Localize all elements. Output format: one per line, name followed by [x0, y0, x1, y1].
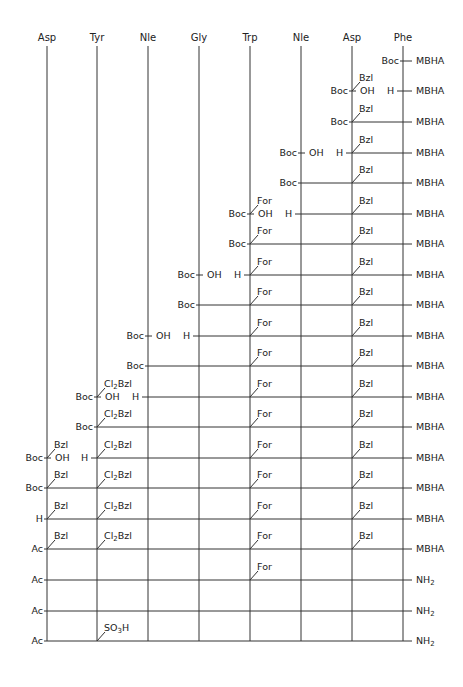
terminal-label: Boc: [177, 299, 195, 310]
side-chain-bond: [250, 357, 258, 366]
protecting-group-cl2bzl: Cl2Bzl: [104, 530, 132, 541]
boc-label: Boc: [177, 269, 195, 280]
resin-label: MBHA: [416, 177, 444, 188]
side-chain-bond: [97, 510, 105, 519]
h-label: H: [336, 147, 343, 158]
protecting-group-cl2bzl: Cl2Bzl: [104, 378, 132, 389]
protecting-group-bzl: Bzl: [54, 530, 68, 541]
side-chain-bond: [352, 205, 360, 214]
oh-label: OH: [360, 85, 375, 96]
protecting-group-bzl: Bzl: [359, 103, 373, 114]
side-chain-bond: [352, 418, 360, 427]
side-chain-bond: [352, 510, 360, 519]
protecting-group-bzl: Bzl: [359, 195, 373, 206]
h-label: H: [81, 452, 88, 463]
protecting-group-bzl: Bzl: [359, 134, 373, 145]
column-header-trp: Trp: [242, 32, 257, 44]
protecting-group-bzl: Bzl: [54, 469, 68, 480]
oh-label: OH: [309, 147, 324, 158]
resin-label: MBHA: [416, 147, 444, 158]
terminal-label: H: [36, 513, 43, 524]
protecting-group-bzl: Bzl: [54, 439, 68, 450]
terminal-label: Ac: [31, 635, 43, 646]
protecting-group-for: For: [257, 225, 272, 236]
protecting-group-for: For: [257, 286, 272, 297]
resin-label: MBHA: [416, 421, 444, 432]
column-header-phe: Phe: [394, 32, 413, 44]
terminal-label: Boc: [330, 116, 348, 127]
side-chain-bond: [352, 388, 360, 397]
side-chain-bond: [97, 632, 105, 641]
side-chain-bond: [250, 296, 258, 305]
side-chain-bond: [250, 510, 258, 519]
side-chain-bond: [97, 388, 105, 397]
side-chain-bond: [352, 479, 360, 488]
terminal-label: Ac: [31, 574, 43, 585]
boc-label: Boc: [75, 391, 93, 402]
protecting-group-bzl: Bzl: [359, 439, 373, 450]
resin-label: NH2: [416, 635, 435, 646]
protecting-group-for: For: [257, 347, 272, 358]
resin-label: MBHA: [416, 208, 444, 219]
column-header-gly: Gly: [191, 32, 207, 44]
h-label: H: [132, 391, 139, 402]
column-header-tyr: Tyr: [90, 32, 105, 44]
terminal-label: Ac: [31, 605, 43, 616]
terminal-label: Boc: [279, 177, 297, 188]
resin-label: MBHA: [416, 482, 444, 493]
terminal-label: Boc: [25, 482, 43, 493]
side-chain-bond: [352, 174, 360, 183]
resin-label: NH2: [416, 574, 435, 585]
side-chain-bond: [47, 540, 55, 549]
side-chain-bond: [250, 418, 258, 427]
protecting-group-bzl: Bzl: [359, 469, 373, 480]
resin-label: MBHA: [416, 238, 444, 249]
side-chain-bond: [47, 479, 55, 488]
protecting-group-for: For: [257, 500, 272, 511]
oh-label: OH: [105, 391, 120, 402]
resin-label: MBHA: [416, 116, 444, 127]
side-chain-bond: [250, 205, 258, 214]
protecting-group-for: For: [257, 469, 272, 480]
column-header-asp: Asp: [343, 32, 361, 44]
side-chain-bond: [352, 82, 360, 91]
side-chain-bond: [352, 449, 360, 458]
side-chain-bond: [250, 235, 258, 244]
oh-label: OH: [156, 330, 171, 341]
oh-label: OH: [207, 269, 222, 280]
side-chain-bond: [250, 388, 258, 397]
protecting-group-bzl: Bzl: [359, 347, 373, 358]
column-header-nle: Nle: [293, 32, 309, 44]
protecting-group-bzl: Bzl: [359, 256, 373, 267]
boc-label: Boc: [330, 85, 348, 96]
protecting-group-bzl: Bzl: [359, 530, 373, 541]
h-label: H: [183, 330, 190, 341]
protecting-group-for: For: [257, 408, 272, 419]
protecting-group-cl2bzl: Cl2Bzl: [104, 408, 132, 419]
protecting-group-so3h: SO3H: [104, 622, 129, 633]
protecting-group-bzl: Bzl: [359, 378, 373, 389]
side-chain-bond: [97, 479, 105, 488]
protecting-group-cl2bzl: Cl2Bzl: [104, 500, 132, 511]
terminal-label: Boc: [381, 55, 399, 66]
boc-label: Boc: [25, 452, 43, 463]
side-chain-bond: [97, 418, 105, 427]
boc-label: Boc: [279, 147, 297, 158]
side-chain-bond: [352, 357, 360, 366]
synthesis-diagram: [0, 0, 463, 687]
resin-label: MBHA: [416, 391, 444, 402]
protecting-group-bzl: Bzl: [359, 72, 373, 83]
resin-label: MBHA: [416, 85, 444, 96]
resin-label: MBHA: [416, 513, 444, 524]
protecting-group-bzl: Bzl: [359, 286, 373, 297]
column-header-nle: Nle: [140, 32, 156, 44]
side-chain-bond: [47, 449, 55, 458]
protecting-group-for: For: [257, 530, 272, 541]
side-chain-bond: [352, 327, 360, 336]
side-chain-bond: [250, 540, 258, 549]
boc-label: Boc: [228, 208, 246, 219]
protecting-group-for: For: [257, 317, 272, 328]
side-chain-bond: [250, 571, 258, 580]
side-chain-bond: [250, 266, 258, 275]
resin-label: MBHA: [416, 452, 444, 463]
